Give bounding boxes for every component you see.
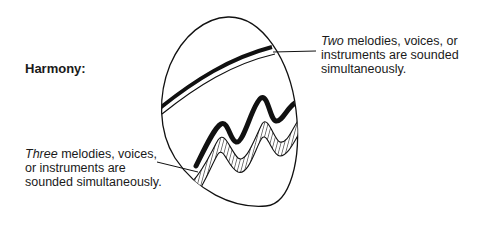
caption-two-parts: Two melodies, voices, or instruments are… (321, 34, 491, 76)
caption-two-line3: simultaneously. (321, 62, 491, 76)
caption-three-line1: melodies, voices, (58, 147, 157, 161)
caption-two-emphasis: Two (321, 34, 344, 48)
caption-three-parts: Three melodies, voices, or instruments a… (25, 147, 185, 189)
caption-three-emphasis: Three (25, 147, 58, 161)
leader-two (273, 51, 316, 52)
caption-three-line3: sounded simultaneously. (25, 175, 185, 189)
caption-two-line1: melodies, voices, or (344, 34, 458, 48)
caption-two-line2: instruments are sounded (321, 48, 491, 62)
caption-three-line2: or instruments are (25, 161, 185, 175)
